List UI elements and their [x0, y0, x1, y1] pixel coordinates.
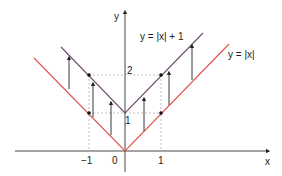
tick-x-1: 1 — [158, 155, 164, 166]
curve-abs-x — [34, 44, 229, 151]
x-axis-label: x — [265, 156, 270, 167]
tick-x-neg1: −1 — [81, 155, 93, 166]
label-abs-x-plus-1: y = |x| + 1 — [140, 31, 184, 42]
tick-y-1: 1 — [125, 115, 131, 126]
label-abs-x: y = |x| — [228, 49, 255, 60]
tick-y-2: 2 — [127, 65, 133, 76]
tick-x-0: 0 — [112, 155, 118, 166]
y-axis-label: y — [114, 11, 119, 22]
graph: y x −1 0 1 1 2 y = |x| + 1 y = |x| — [0, 0, 282, 176]
